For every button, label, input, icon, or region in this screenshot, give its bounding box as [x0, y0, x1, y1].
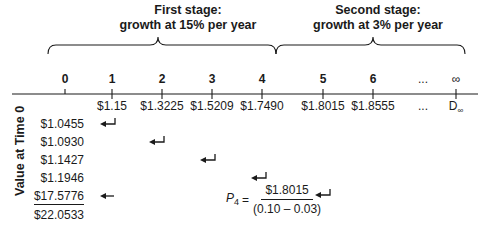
- dividend-2: $1.3225: [140, 99, 183, 113]
- formula-numerator: $1.8015: [261, 183, 312, 200]
- brace-second-stage: [276, 37, 465, 54]
- dividend-5: $1.8015: [301, 99, 344, 113]
- pv-total: $22.0533: [14, 208, 84, 222]
- dividend-infinity-symbol: D: [449, 99, 458, 113]
- formula-lhs-symbol: P: [226, 191, 234, 205]
- period-2: 2: [159, 72, 166, 86]
- dividend-infinity-subscript: ∞: [457, 106, 463, 115]
- period-ellipsis: ...: [418, 72, 428, 86]
- brace-first-stage: [48, 37, 276, 54]
- dividend-ellipsis: ...: [418, 99, 428, 113]
- formula-lhs-subscript: 4: [234, 198, 239, 208]
- dividend-infinity: D∞: [449, 99, 463, 115]
- formula-equals: =: [242, 193, 249, 207]
- dividend-3: $1.5209: [190, 99, 233, 113]
- pv-dividend-2: $1.0930: [14, 135, 84, 149]
- dividend-4: $1.7490: [240, 99, 283, 113]
- period-5: 5: [320, 72, 327, 86]
- pv-terminal-value: $17.5776: [14, 189, 84, 203]
- period-4: 4: [259, 72, 266, 86]
- dividend-1: $1.15: [97, 99, 127, 113]
- pv-dividend-1: $1.0455: [14, 117, 84, 131]
- period-infinity: ∞: [452, 72, 461, 86]
- pv-dividend-3: $1.1427: [14, 153, 84, 167]
- terminal-value-formula: P4 = $1.8015 (0.10 – 0.03): [226, 183, 321, 216]
- pv-dividend-4: $1.1946: [14, 171, 84, 185]
- period-1: 1: [109, 72, 116, 86]
- period-3: 3: [209, 72, 216, 86]
- period-0: 0: [62, 72, 69, 86]
- period-6: 6: [370, 72, 377, 86]
- dividend-6: $1.8555: [351, 99, 394, 113]
- formula-denominator: (0.10 – 0.03): [253, 200, 321, 216]
- pv-terminal-value-text: $17.5776: [34, 189, 84, 205]
- formula-lhs: P4: [226, 191, 239, 207]
- formula-fraction: $1.8015 (0.10 – 0.03): [253, 183, 321, 216]
